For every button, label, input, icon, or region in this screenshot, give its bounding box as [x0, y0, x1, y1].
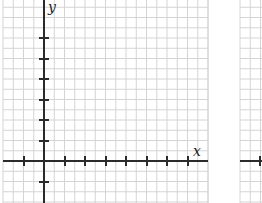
- right-grid-panel: [240, 0, 262, 203]
- y-axis-label: y: [47, 0, 57, 15]
- x-axis-label: x: [193, 143, 201, 159]
- left-grid-panel: [3, 0, 208, 203]
- coordinate-grid-figure: y x: [0, 0, 262, 203]
